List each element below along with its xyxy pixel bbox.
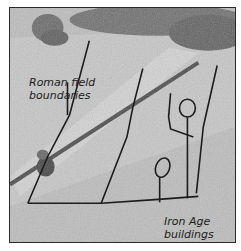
label-line: boundaries [29,89,95,102]
roman-field-boundaries-label: Roman field boundaries [29,76,95,102]
label-line: buildings [164,228,214,241]
iron-age-buildings-label: Iron Age buildings [164,215,214,241]
label-line: Roman field [29,76,95,89]
aerial-photo [10,8,235,242]
label-line: Iron Age [164,215,214,228]
photo-grain [10,8,235,242]
aerial-photo-frame: Roman field boundaries Iron Age building… [9,7,236,243]
